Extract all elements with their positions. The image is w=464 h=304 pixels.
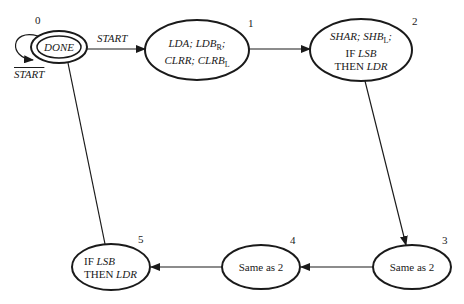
state-5-ldr: LDR bbox=[116, 268, 137, 280]
state-2-line1: SHAR; SHB bbox=[330, 30, 383, 42]
state-1-label: LDA; LDBR; CLRR; CLRBL bbox=[150, 37, 244, 71]
state-0-number: 0 bbox=[35, 14, 41, 26]
state-2-if: IF bbox=[346, 47, 359, 59]
state-5-then: THEN bbox=[84, 268, 116, 280]
state-1-number: 1 bbox=[248, 17, 254, 29]
state-2-ldr: LDR bbox=[367, 60, 388, 72]
state-3-number: 3 bbox=[442, 234, 448, 246]
arrow-5-0 bbox=[68, 63, 105, 244]
state-2-number: 2 bbox=[412, 15, 418, 27]
state-2-line1-end: ; bbox=[388, 30, 392, 42]
state-2-label: SHAR; SHBL; IF LSB THEN LDR bbox=[314, 30, 408, 73]
arrow-2-3 bbox=[365, 81, 406, 245]
state-2-lsb: LSB bbox=[358, 47, 376, 59]
state-3-label: Same as 2 bbox=[380, 261, 444, 274]
state-5-lsb: LSB bbox=[97, 255, 115, 267]
state-4-label: Same as 2 bbox=[229, 261, 293, 274]
state-2-then: THEN bbox=[335, 60, 367, 72]
state-5-number: 5 bbox=[138, 233, 144, 245]
transition-label-start: START bbox=[97, 32, 127, 45]
state-0-label: DONE bbox=[39, 41, 79, 54]
state-1-line2-sub: L bbox=[225, 60, 230, 69]
state-4-number: 4 bbox=[290, 234, 296, 246]
state-1-line2: CLRR; CLRB bbox=[164, 54, 224, 66]
state-1-line1-end: ; bbox=[222, 37, 226, 49]
state-5-if: IF bbox=[84, 255, 97, 267]
state-1-line1: LDA; LDB bbox=[169, 37, 217, 49]
transition-label-not-start: START bbox=[14, 68, 44, 81]
state-5-label: IF LSB THEN LDR bbox=[84, 255, 137, 281]
